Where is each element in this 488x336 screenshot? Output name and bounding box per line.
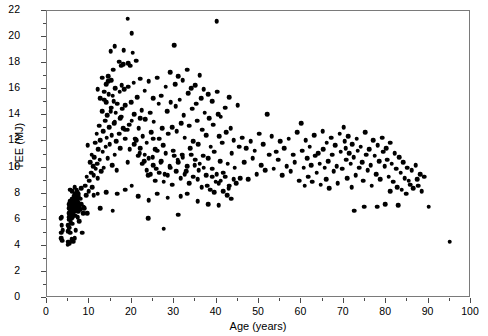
- y-tick-mark: [41, 10, 46, 11]
- y-tick-mark: [41, 245, 46, 246]
- x-tick-mark: [343, 298, 344, 303]
- y-tick-mark: [43, 258, 46, 259]
- x-tick-mark: [237, 298, 238, 301]
- x-tick-label: 100: [461, 305, 479, 318]
- y-tick-mark: [41, 193, 46, 194]
- y-tick-mark: [43, 232, 46, 233]
- x-tick-label: 90: [422, 305, 434, 318]
- y-tick-mark: [43, 23, 46, 24]
- x-tick-label: 60: [295, 305, 307, 318]
- x-tick-mark: [449, 298, 450, 301]
- x-tick-mark: [46, 298, 47, 303]
- x-tick-label: 40: [210, 305, 222, 318]
- x-tick-mark: [428, 298, 429, 303]
- x-tick-mark: [279, 298, 280, 301]
- y-tick-mark: [41, 88, 46, 89]
- scatter-plot-figure: 0246810121416182022 01020304050607080901…: [0, 0, 488, 336]
- x-tick-mark: [385, 298, 386, 303]
- x-tick-mark: [194, 298, 195, 301]
- x-tick-label: 30: [167, 305, 179, 318]
- y-tick-mark: [43, 206, 46, 207]
- x-tick-mark: [131, 298, 132, 303]
- x-tick-mark: [173, 298, 174, 303]
- y-tick-label: 6: [14, 212, 20, 225]
- y-tick-label: 22: [8, 3, 20, 16]
- y-tick-mark: [43, 284, 46, 285]
- x-tick-mark: [67, 298, 68, 301]
- x-tick-mark: [88, 298, 89, 303]
- y-tick-mark: [43, 180, 46, 181]
- y-axis: 0246810121416182022: [0, 0, 470, 336]
- x-tick-mark: [300, 298, 301, 303]
- y-tick-mark: [41, 62, 46, 63]
- y-tick-mark: [41, 36, 46, 37]
- y-tick-label: 2: [14, 264, 20, 277]
- x-axis-label: Age (years): [46, 320, 470, 332]
- y-tick-label: 18: [8, 55, 20, 68]
- x-tick-label: 70: [337, 305, 349, 318]
- y-tick-mark: [41, 271, 46, 272]
- y-tick-mark: [43, 49, 46, 50]
- x-tick-mark: [152, 298, 153, 301]
- x-tick-mark: [470, 298, 471, 303]
- y-tick-mark: [41, 219, 46, 220]
- x-tick-label: 20: [125, 305, 137, 318]
- x-tick-mark: [110, 298, 111, 301]
- y-tick-label: 20: [8, 29, 20, 42]
- x-tick-mark: [216, 298, 217, 303]
- y-tick-label: 0: [14, 290, 20, 303]
- y-tick-mark: [43, 101, 46, 102]
- x-tick-label: 0: [43, 305, 49, 318]
- y-tick-mark: [43, 154, 46, 155]
- x-tick-mark: [322, 298, 323, 301]
- y-tick-label: 4: [14, 238, 20, 251]
- x-tick-mark: [406, 298, 407, 301]
- y-axis-label: TEE (MJ): [13, 91, 25, 201]
- y-tick-mark: [43, 75, 46, 76]
- x-tick-label: 80: [379, 305, 391, 318]
- y-tick-mark: [41, 167, 46, 168]
- x-tick-mark: [364, 298, 365, 301]
- y-tick-mark: [41, 114, 46, 115]
- y-tick-mark: [41, 140, 46, 141]
- x-tick-mark: [258, 298, 259, 303]
- y-tick-mark: [43, 127, 46, 128]
- x-tick-label: 10: [83, 305, 95, 318]
- x-tick-label: 50: [252, 305, 264, 318]
